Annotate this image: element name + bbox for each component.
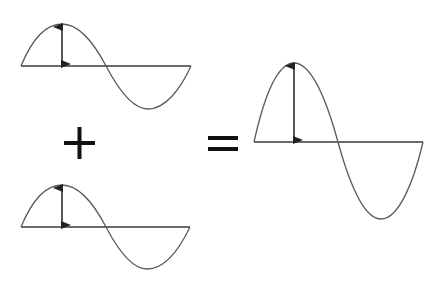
sine-curve xyxy=(254,63,423,219)
wave-a xyxy=(21,24,191,109)
interference-diagram xyxy=(0,0,444,292)
wave-b xyxy=(21,185,190,269)
wave-sum xyxy=(254,63,423,219)
plus-icon xyxy=(64,127,95,159)
equals-icon xyxy=(208,138,238,149)
